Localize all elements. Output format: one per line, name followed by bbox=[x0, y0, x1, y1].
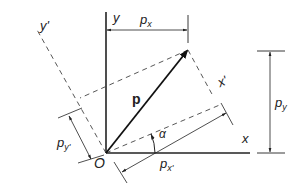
projection-to-x-prime bbox=[188, 50, 213, 96]
pxp-start-tick bbox=[114, 162, 127, 183]
vector-p bbox=[106, 51, 187, 153]
vector-p-label: p bbox=[132, 91, 141, 107]
pxp-dimension-line bbox=[122, 113, 226, 172]
y-axis-label: y bbox=[112, 10, 121, 25]
px-label: px bbox=[139, 12, 152, 29]
x-axis-label: x bbox=[241, 131, 249, 146]
angle-alpha-arc bbox=[151, 134, 155, 153]
y-prime-axis-label: y' bbox=[39, 18, 50, 33]
x-prime-axis-label: x' bbox=[214, 72, 230, 90]
angle-alpha-label: α bbox=[159, 127, 167, 141]
pxp-end-tick bbox=[221, 103, 233, 125]
coordinate-rotation-diagram: y x y' x' p α O px py px' py' bbox=[0, 0, 302, 190]
py-label: py bbox=[274, 95, 287, 112]
pyp-top-tick bbox=[58, 108, 82, 118]
y-prime-axis bbox=[36, 28, 106, 153]
pyp-label: py' bbox=[56, 135, 71, 152]
pyp-dimension-line bbox=[69, 116, 91, 159]
pxp-label: px' bbox=[159, 156, 174, 173]
